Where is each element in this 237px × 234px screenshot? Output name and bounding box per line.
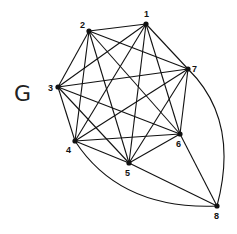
- node-1: [143, 21, 148, 26]
- edge-1-7: [146, 24, 188, 69]
- node-label-7: 7: [192, 64, 197, 74]
- edges: [58, 24, 224, 206]
- edge-4-8: [75, 141, 217, 206]
- edge-3-7: [58, 69, 188, 87]
- node-label-5: 5: [125, 168, 130, 178]
- edge-5-8: [129, 163, 217, 206]
- edge-3-4: [58, 87, 75, 141]
- node-5: [126, 160, 131, 165]
- edge-1-4: [75, 24, 146, 141]
- edge-2-4: [75, 31, 89, 141]
- edge-1-6: [146, 24, 180, 134]
- node-label-1: 1: [144, 9, 149, 19]
- edge-6-8: [180, 134, 217, 206]
- node-label-3: 3: [48, 83, 53, 93]
- edge-1-3: [58, 24, 146, 87]
- node-label-8: 8: [214, 211, 219, 221]
- edge-5-6: [129, 134, 180, 163]
- graph-svg: G 12345678: [0, 0, 237, 234]
- node-6: [177, 131, 182, 136]
- node-3: [55, 84, 60, 89]
- node-7: [185, 66, 190, 71]
- node-8: [214, 203, 219, 208]
- node-2: [86, 28, 91, 33]
- nodes: 12345678: [48, 9, 220, 221]
- edge-4-6: [75, 134, 180, 141]
- edge-2-3: [58, 31, 89, 87]
- node-4: [72, 138, 77, 143]
- node-label-2: 2: [80, 20, 85, 30]
- graph-diagram: G 12345678: [0, 0, 237, 234]
- edge-6-7: [180, 69, 188, 134]
- node-label-4: 4: [66, 145, 71, 155]
- graph-name-label: G: [14, 81, 31, 106]
- edge-1-5: [129, 24, 146, 163]
- node-label-6: 6: [176, 139, 181, 149]
